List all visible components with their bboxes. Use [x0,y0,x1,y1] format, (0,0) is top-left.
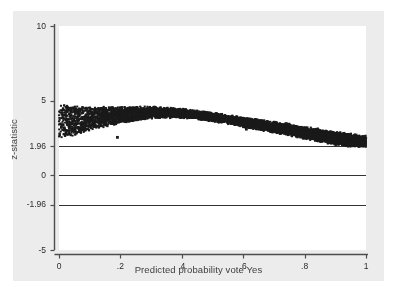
y-tick-label: 10 [0,21,46,31]
x-tick-label: .6 [223,261,263,271]
y-tick-label: 5 [0,95,46,105]
y-axis-title: z-statistic [8,100,19,180]
x-tick-label: .2 [100,261,140,271]
x-tick-label: 0 [39,261,79,271]
y-tick-label: 1.96 [0,141,46,151]
y-tick-label: -5 [0,245,46,255]
y-tick-label: 0 [0,170,46,180]
y-tick-label: -1.96 [0,199,46,209]
x-tick-label: .4 [162,261,202,271]
x-tick-label: .8 [285,261,325,271]
x-tick-label: 1 [346,261,386,271]
scatter-plot-canvas [0,0,397,294]
